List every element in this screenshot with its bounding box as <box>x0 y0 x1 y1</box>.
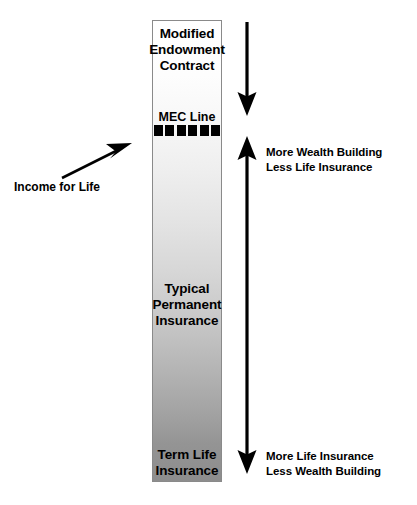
more-wealth-building-note: More Wealth Building Less Life Insurance <box>266 145 382 174</box>
note-bottom-line-2: Less Wealth Building <box>266 464 381 479</box>
mec-dash <box>211 125 220 136</box>
mec-dash <box>188 125 197 136</box>
diagram-canvas: Modified Endowment Contract MEC Line Typ… <box>0 0 417 505</box>
term-label-line-1: Term Life <box>127 447 247 463</box>
term-life-insurance-label: Term Life Insurance <box>127 447 247 479</box>
typical-label-line-1: Typical <box>127 281 247 297</box>
insurance-continuum-column <box>152 20 222 482</box>
term-label-line-2: Insurance <box>127 463 247 479</box>
modified-endowment-contract-label: Modified Endowment Contract <box>127 26 247 74</box>
mec-dash <box>154 125 163 136</box>
typical-label-line-3: Insurance <box>127 313 247 329</box>
typical-permanent-insurance-label: Typical Permanent Insurance <box>127 281 247 329</box>
mec-dash <box>200 125 209 136</box>
note-top-line-1: More Wealth Building <box>266 145 382 160</box>
income-for-life-pointer-arrow-icon <box>62 143 132 178</box>
note-bottom-line-1: More Life Insurance <box>266 449 381 464</box>
mec-dash <box>177 125 186 136</box>
mec-label-line-2: Endowment <box>127 42 247 58</box>
typical-label-line-2: Permanent <box>127 297 247 313</box>
mec-label-line-1: Modified <box>127 26 247 42</box>
mec-dash <box>165 125 174 136</box>
mec-line-label: MEC Line <box>127 110 247 124</box>
mec-label-line-3: Contract <box>127 58 247 74</box>
note-top-line-2: Less Life Insurance <box>266 160 382 175</box>
mec-line-dashes <box>154 125 220 136</box>
more-life-insurance-note: More Life Insurance Less Wealth Building <box>266 449 381 478</box>
income-for-life-label: Income for Life <box>14 180 100 194</box>
